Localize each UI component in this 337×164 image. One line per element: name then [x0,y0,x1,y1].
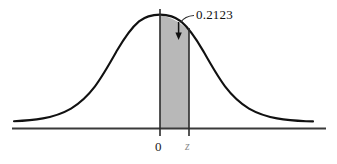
axis-tick-label-z: z [185,139,190,154]
shaded-area-region [160,16,189,129]
normal-distribution-figure: 0.2123 0 z [0,0,337,164]
area-value-label: 0.2123 [196,7,233,23]
normal-curve-svg [0,0,337,164]
axis-tick-label-zero: 0 [155,139,162,155]
